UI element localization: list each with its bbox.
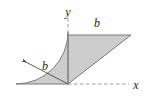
triangle-top-dimension-label-b: b [94, 16, 100, 30]
sector-radius-dimension-label-b: b [42, 59, 48, 73]
quarter-circular-sector [16, 32, 68, 84]
y-axis-label: y [64, 5, 71, 19]
composite-area-figure: y x b b [0, 0, 143, 102]
figure-container: y x b b [0, 0, 143, 102]
x-axis-label: x [132, 78, 139, 92]
shaded-region-group [16, 32, 131, 84]
